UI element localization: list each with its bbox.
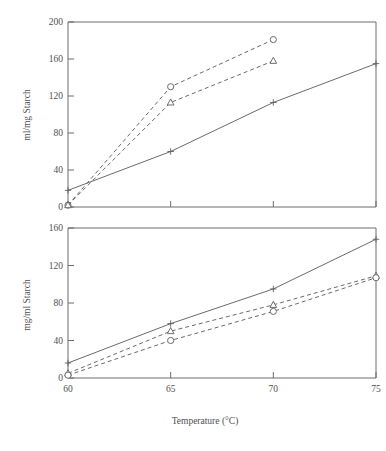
y-tick-label: 0 bbox=[58, 373, 63, 383]
y-tick-label: 0 bbox=[58, 202, 63, 212]
bottom-panel-frame bbox=[68, 228, 376, 378]
data-point-circle bbox=[373, 275, 379, 281]
series-line-plus-solid bbox=[68, 239, 376, 363]
two-panel-line-chart: 04080120160200 ml/mg Starch 04080120160 … bbox=[0, 0, 386, 451]
data-point-plus bbox=[167, 320, 173, 326]
top-plot-frame bbox=[68, 22, 376, 207]
data-point-circle bbox=[168, 84, 174, 90]
y-tick-label: 160 bbox=[49, 223, 64, 233]
y-tick-label: 40 bbox=[54, 165, 64, 175]
bottom-panel-x-ticks bbox=[68, 372, 376, 378]
panel-top: 04080120160200 ml/mg Starch bbox=[22, 17, 379, 212]
bottom-panel-y-ticks bbox=[68, 228, 74, 378]
top-panel-x-ticks bbox=[68, 201, 376, 207]
top-panel-frame bbox=[68, 22, 376, 207]
series-line-triangle-dashed bbox=[68, 276, 376, 374]
data-point-triangle bbox=[270, 57, 277, 63]
data-point-circle bbox=[65, 372, 71, 378]
series-line-circle-dashed bbox=[68, 40, 273, 206]
x-axis-title: Temperature (°C) bbox=[172, 416, 239, 427]
bottom-panel-y-axis-title: mg/ml Starch bbox=[22, 279, 32, 331]
top-panel-series-group bbox=[65, 36, 380, 208]
top-panel-y-ticks bbox=[68, 22, 74, 207]
panel-bottom: 04080120160 60657075 mg/ml Starch bbox=[22, 223, 381, 394]
x-tick-label: 60 bbox=[63, 384, 73, 394]
data-point-plus bbox=[65, 187, 71, 193]
data-point-circle bbox=[270, 308, 276, 314]
y-tick-label: 120 bbox=[49, 261, 64, 271]
data-point-plus bbox=[270, 99, 276, 105]
y-tick-label: 80 bbox=[54, 128, 64, 138]
y-tick-label: 120 bbox=[49, 91, 64, 101]
series-line-triangle-dashed bbox=[68, 61, 273, 205]
bottom-panel-x-tick-labels: 60657075 bbox=[63, 384, 381, 394]
series-line-plus-solid bbox=[68, 64, 376, 191]
y-tick-label: 80 bbox=[54, 298, 64, 308]
figure-container: 04080120160200 ml/mg Starch 04080120160 … bbox=[0, 0, 386, 451]
bottom-panel-series-group bbox=[65, 236, 380, 378]
x-tick-label: 65 bbox=[166, 384, 176, 394]
data-point-plus bbox=[65, 360, 71, 366]
top-panel-y-axis-title: ml/mg Starch bbox=[22, 89, 32, 141]
x-tick-label: 70 bbox=[269, 384, 279, 394]
data-point-plus bbox=[270, 286, 276, 292]
data-point-circle bbox=[168, 337, 174, 343]
top-panel-y-tick-labels: 04080120160200 bbox=[49, 17, 64, 212]
y-tick-label: 160 bbox=[49, 54, 64, 64]
bottom-panel-y-tick-labels: 04080120160 bbox=[49, 223, 64, 383]
data-point-plus bbox=[167, 148, 173, 154]
series-line-circle-dashed bbox=[68, 278, 376, 376]
x-tick-label: 75 bbox=[371, 384, 381, 394]
data-point-circle bbox=[270, 36, 276, 42]
bottom-plot-frame bbox=[68, 228, 376, 378]
data-point-plus bbox=[373, 60, 379, 66]
y-tick-label: 40 bbox=[54, 336, 64, 346]
y-tick-label: 200 bbox=[49, 17, 64, 27]
data-point-plus bbox=[373, 236, 379, 242]
